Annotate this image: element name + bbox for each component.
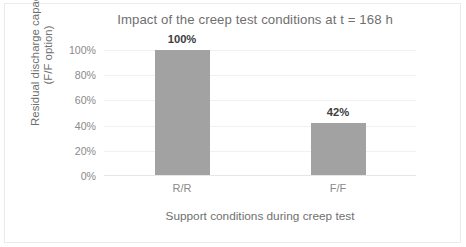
gridline bbox=[104, 75, 416, 76]
y-tick-label: 20% bbox=[75, 145, 96, 157]
plot-area bbox=[104, 50, 416, 176]
gridline bbox=[104, 100, 416, 101]
x-tick-label: F/F bbox=[330, 182, 347, 194]
bar-f-f[interactable] bbox=[311, 123, 366, 176]
y-tick-label: 0% bbox=[81, 170, 96, 182]
y-tick-label: 40% bbox=[75, 120, 96, 132]
gridline bbox=[104, 151, 416, 152]
chart-title: Impact of the creep test conditions at t… bbox=[60, 12, 450, 27]
bar-value-label: 42% bbox=[327, 106, 349, 118]
y-axis-title: Residual discharge capacity (F/F option) bbox=[25, 0, 59, 130]
x-tick-label: R/R bbox=[173, 182, 192, 194]
y-tick-label: 100% bbox=[69, 44, 96, 56]
gridline bbox=[104, 126, 416, 127]
y-tick-label: 80% bbox=[75, 69, 96, 81]
chart-figure: Impact of the creep test conditions at t… bbox=[0, 0, 466, 247]
y-axis-tick-labels: 0%20%40%60%80%100% bbox=[62, 50, 102, 176]
y-tick-label: 60% bbox=[75, 94, 96, 106]
x-axis-line bbox=[104, 175, 416, 176]
bar-value-label: 100% bbox=[168, 33, 197, 45]
y-axis-title-line-1: Residual discharge capacity bbox=[29, 0, 42, 126]
gridline bbox=[104, 50, 416, 51]
x-axis-title: Support conditions during creep test bbox=[104, 209, 416, 223]
bar-r-r[interactable] bbox=[155, 50, 210, 176]
y-axis-title-line-2: (F/F option) bbox=[42, 26, 55, 85]
